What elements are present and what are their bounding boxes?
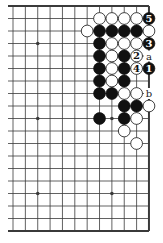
white-stone	[106, 63, 118, 75]
hoshi-point	[110, 192, 114, 196]
white-stone	[118, 125, 130, 137]
black-stone	[94, 25, 106, 37]
hoshi-point	[36, 117, 40, 121]
point-label: a	[146, 51, 152, 62]
white-stone	[81, 25, 93, 37]
white-stone	[106, 50, 118, 62]
white-stone	[143, 100, 155, 112]
black-stone	[131, 25, 143, 37]
move-number: 5	[145, 13, 152, 24]
black-stone	[131, 100, 143, 112]
go-board: 53241 ab	[0, 0, 163, 243]
move-number: 4	[133, 63, 140, 74]
hoshi-point	[110, 117, 114, 121]
white-stone	[106, 38, 118, 50]
black-stone	[94, 63, 106, 75]
move-number: 2	[133, 50, 140, 61]
black-stone	[118, 100, 130, 112]
black-stone	[94, 50, 106, 62]
move-number: 1	[145, 63, 152, 74]
black-stone	[118, 113, 130, 125]
white-stone	[131, 113, 143, 125]
white-stone	[143, 25, 155, 37]
move-number: 3	[145, 38, 152, 49]
white-stone	[131, 13, 143, 25]
black-stone	[118, 25, 130, 37]
white-stone	[118, 88, 130, 100]
white-stone	[118, 13, 130, 25]
white-stone	[131, 38, 143, 50]
white-stone	[94, 13, 106, 25]
point-label: b	[146, 88, 152, 99]
black-stone	[118, 63, 130, 75]
hoshi-point	[36, 192, 40, 196]
black-stone	[94, 88, 106, 100]
black-stone	[94, 38, 106, 50]
hoshi-point	[36, 42, 40, 46]
white-stone	[118, 38, 130, 50]
white-stone	[106, 13, 118, 25]
black-stone	[106, 88, 118, 100]
white-stone	[131, 88, 143, 100]
black-stone	[118, 75, 130, 87]
white-stone	[106, 75, 118, 87]
black-stone	[94, 113, 106, 125]
white-stone	[131, 138, 143, 150]
black-stone	[118, 50, 130, 62]
black-stone	[106, 25, 118, 37]
black-stone	[94, 75, 106, 87]
